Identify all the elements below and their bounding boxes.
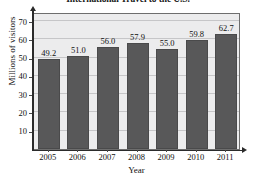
x-tick-mark — [107, 150, 108, 152]
x-axis-line — [32, 150, 243, 152]
x-axis-arrow-icon — [242, 147, 247, 153]
bar — [97, 47, 119, 149]
x-tick-mark — [137, 150, 138, 152]
bar-group: 49.2 — [38, 12, 60, 149]
y-tick-label: 60 — [9, 36, 27, 45]
x-tick-mark — [166, 150, 167, 152]
bar — [67, 56, 89, 149]
y-tick-label: 70 — [9, 18, 27, 27]
x-tick-mark — [225, 150, 226, 152]
bar-group: 56.0 — [97, 12, 119, 149]
y-tick-label: 50 — [9, 54, 27, 63]
bar — [38, 59, 60, 149]
bar-group: 55.0 — [156, 12, 178, 149]
bar-group: 51.0 — [67, 12, 89, 149]
y-axis-arrow-icon — [30, 6, 36, 11]
y-tick-label: 40 — [9, 72, 27, 81]
y-tick-label: 30 — [9, 91, 27, 100]
chart-title: International Travel to the U.S. — [0, 0, 256, 5]
x-tick-mark — [196, 150, 197, 152]
x-tick-mark — [77, 150, 78, 152]
x-axis-tick-labels: 2005200620072008200920102011 — [33, 152, 240, 164]
bar — [186, 40, 208, 149]
x-tick-mark — [48, 150, 49, 152]
bar-group: 57.9 — [127, 12, 149, 149]
y-axis-tick-labels: 10203040506070 — [9, 0, 27, 179]
x-axis-title: Year — [33, 165, 240, 175]
y-tick-label: 20 — [9, 109, 27, 118]
x-tick-label: 2011 — [208, 152, 242, 162]
bar — [127, 43, 149, 149]
bar-group: 62.7 — [215, 12, 237, 149]
y-axis-line — [32, 10, 34, 151]
bar-group: 59.8 — [186, 12, 208, 149]
bar-value-label: 51.0 — [61, 46, 95, 55]
bar-value-label: 62.7 — [209, 24, 243, 33]
y-tick-label: 10 — [9, 127, 27, 136]
plot-area: 49.251.056.057.955.059.862.7 — [33, 13, 240, 150]
bar — [215, 34, 237, 149]
bar-value-label: 55.0 — [150, 39, 184, 48]
bar-chart-figure: International Travel to the U.S. Million… — [0, 0, 256, 179]
bar — [156, 49, 178, 149]
